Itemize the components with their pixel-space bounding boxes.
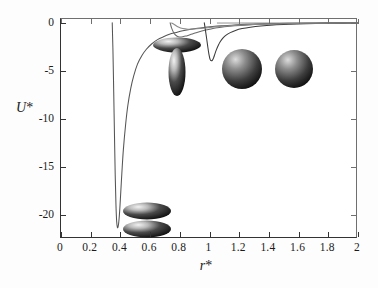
- x-tick-label: 0: [57, 241, 63, 253]
- inset-t-configuration-ellipsoids: [153, 38, 201, 97]
- inset-two-spheres: [222, 49, 313, 89]
- x-tick-label: 0.6: [142, 241, 157, 253]
- x-tick: [150, 232, 151, 237]
- figure-canvas: U* r*: [0, 0, 378, 288]
- plot-area: [60, 18, 357, 238]
- x-tick-label: 1.4: [260, 241, 275, 253]
- x-tick-top: [299, 19, 300, 24]
- x-axis-title-star: *: [205, 258, 212, 273]
- x-tick-label: 0.8: [171, 241, 186, 253]
- x-tick-label: 1.8: [320, 241, 335, 253]
- y-tick-label: 0: [22, 16, 54, 28]
- x-tick: [358, 232, 359, 237]
- x-tick: [180, 232, 181, 237]
- y-tick: [61, 119, 66, 120]
- x-tick-top: [269, 19, 270, 24]
- x-tick-label: 2: [354, 241, 360, 253]
- y-tick-right: [351, 119, 356, 120]
- x-tick-label: 1.6: [290, 241, 305, 253]
- y-tick-label: -5: [22, 64, 54, 76]
- x-tick: [210, 232, 211, 237]
- x-tick-label: 0.4: [112, 241, 127, 253]
- molecule-inset-layer: [61, 19, 358, 239]
- y-tick-label: -20: [22, 208, 54, 220]
- x-tick-top: [328, 19, 329, 24]
- y-tick-right: [351, 71, 356, 72]
- x-tick-label: 1.2: [231, 241, 246, 253]
- x-tick: [91, 232, 92, 237]
- y-tick: [61, 71, 66, 72]
- x-axis-title: r*: [200, 258, 212, 274]
- x-tick: [269, 232, 270, 237]
- x-tick-top: [91, 19, 92, 24]
- y-tick-right: [351, 167, 356, 168]
- x-tick-top: [239, 19, 240, 24]
- x-tick-top: [210, 19, 211, 24]
- x-tick-top: [358, 19, 359, 24]
- x-tick-top: [180, 19, 181, 24]
- x-tick: [120, 232, 121, 237]
- y-tick: [61, 215, 66, 216]
- y-tick-label: -15: [22, 160, 54, 172]
- x-tick-label: 0.2: [82, 241, 97, 253]
- x-tick-label: 1: [206, 241, 212, 253]
- x-tick: [239, 232, 240, 237]
- x-tick: [61, 232, 62, 237]
- x-tick: [299, 232, 300, 237]
- x-tick-top: [120, 19, 121, 24]
- y-tick: [61, 23, 66, 24]
- x-tick: [328, 232, 329, 237]
- y-tick: [61, 167, 66, 168]
- inset-side-by-side-ellipsoids: [123, 203, 171, 238]
- y-tick-right: [351, 23, 356, 24]
- y-tick-label: -10: [22, 112, 54, 124]
- x-tick-top: [150, 19, 151, 24]
- y-tick-right: [351, 215, 356, 216]
